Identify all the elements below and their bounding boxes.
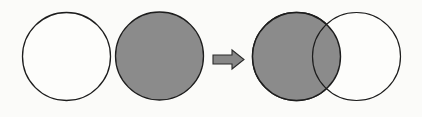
venn-diagram-canvas: [0, 0, 422, 117]
set-operation-diagram: Two separate circles, one unfilled and o…: [0, 0, 422, 117]
intersection-lens: [253, 13, 341, 101]
result-sets-group: [253, 13, 401, 101]
circle-a-unfilled: [23, 13, 111, 101]
circle-b-shaded: [116, 12, 204, 100]
